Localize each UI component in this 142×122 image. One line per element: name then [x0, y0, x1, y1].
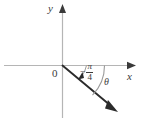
x-axis-label: x	[127, 71, 132, 82]
origin-label: 0	[52, 68, 58, 79]
angle-value-minus-sign: −	[80, 67, 86, 77]
y-axis-label: y	[48, 3, 53, 14]
y-axis-arrowhead	[59, 4, 66, 13]
coordinate-plane-svg	[0, 0, 142, 122]
angle-value-fraction: π 4	[86, 62, 93, 82]
theta-label: θ	[104, 77, 109, 87]
angle-arc	[93, 66, 105, 96]
angle-diagram-figure: y x 0 θ − π 4	[0, 0, 142, 122]
x-axis-arrowhead	[127, 62, 136, 69]
angle-value-label: − π 4	[80, 62, 93, 82]
angle-value-numerator: π	[86, 62, 93, 72]
angle-value-denominator: 4	[86, 73, 93, 83]
